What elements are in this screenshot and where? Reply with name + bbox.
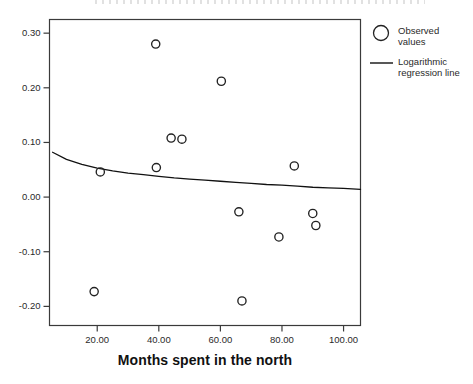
y-tick-label: 0.30 bbox=[0, 27, 41, 38]
legend-marker-observed-values bbox=[374, 26, 389, 41]
x-axis-title: Months spent in the north bbox=[49, 352, 361, 368]
x-tick-label: 80.00 bbox=[254, 334, 310, 345]
y-tick-label: 0.20 bbox=[0, 82, 41, 93]
x-tick-label: 20.00 bbox=[69, 334, 125, 345]
y-tick-label: 0.00 bbox=[0, 191, 41, 202]
scatter-plot-figure: 0.300.200.100.00-0.10-0.20 20.0040.0060.… bbox=[0, 0, 473, 384]
y-tick-label: -0.10 bbox=[0, 246, 41, 257]
y-tick-label: -0.20 bbox=[0, 300, 41, 311]
legend-label-observed-values: Observed values bbox=[398, 25, 439, 47]
x-axis-ticks bbox=[97, 326, 343, 332]
x-tick-label: 100.00 bbox=[316, 334, 372, 345]
x-tick-label: 40.00 bbox=[131, 334, 187, 345]
x-tick-label: 60.00 bbox=[192, 334, 248, 345]
y-axis-ticks bbox=[44, 33, 50, 306]
y-tick-label: 0.10 bbox=[0, 136, 41, 147]
legend-label-regression-line: Logarithmic regression line bbox=[398, 56, 460, 78]
